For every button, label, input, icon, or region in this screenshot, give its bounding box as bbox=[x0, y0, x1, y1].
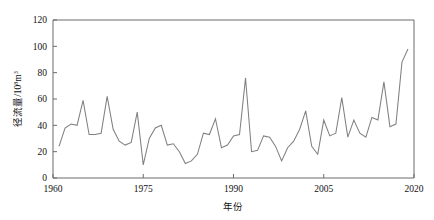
y-axis-title-exponent-3: 3 bbox=[12, 71, 19, 74]
x-tick-label: 1990 bbox=[224, 184, 243, 194]
x-tick-label: 1960 bbox=[44, 184, 63, 194]
y-tick-label: 20 bbox=[38, 147, 48, 157]
y-axis-title-group: 径流量/108m3 bbox=[12, 71, 23, 127]
y-tick-label: 120 bbox=[33, 15, 48, 25]
y-tick-label: 60 bbox=[38, 94, 48, 104]
runoff-line-chart: 020406080100120 19601975199020052020 径流量… bbox=[0, 0, 434, 220]
y-tick-label: 0 bbox=[42, 173, 47, 183]
x-axis-title: 年份 bbox=[223, 201, 243, 212]
chart-figure: 020406080100120 19601975199020052020 径流量… bbox=[0, 0, 434, 220]
x-tick-label: 2005 bbox=[314, 184, 333, 194]
chart-background bbox=[0, 0, 434, 220]
y-axis-title-base: 径流量/10 bbox=[12, 84, 23, 126]
x-tick-label: 1975 bbox=[134, 184, 153, 194]
y-axis-title: 径流量/108m3 bbox=[12, 71, 23, 127]
y-tick-label: 80 bbox=[38, 68, 48, 78]
x-tick-label: 2020 bbox=[405, 184, 424, 194]
y-tick-label: 40 bbox=[38, 121, 48, 131]
y-tick-label: 100 bbox=[33, 42, 48, 52]
